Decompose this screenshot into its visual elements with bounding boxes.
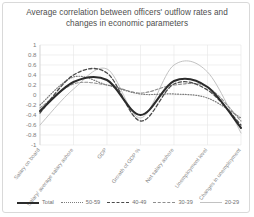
legend-item-20-29[interactable]: 20-29: [200, 199, 239, 205]
y-axis-tick-label: -0.2: [26, 101, 37, 108]
x-axis-tick-label: Unemployment level: [173, 147, 208, 189]
legend-swatch-40-49: [107, 199, 129, 205]
chart-plot-area: 10.80.60.40.20-0.2-0.4-0.6-0.8-1Salary o…: [3, 3, 251, 214]
y-axis-tick-label: 1: [33, 41, 37, 48]
legend-swatch-20-29: [200, 199, 222, 205]
legend-item-30-39[interactable]: 30-39: [153, 199, 192, 205]
x-axis-tick-label: Net salary ashore: [144, 147, 175, 184]
x-axis-tick-label: Salary on board: [13, 147, 41, 181]
y-axis-tick-label: 0.2: [28, 81, 37, 88]
legend-swatch-total: [17, 199, 39, 205]
x-axis-tick-label: GDP: [96, 147, 108, 160]
legend-label-total: Total: [42, 199, 54, 205]
chart-legend: Total 50-59 40-49 30-39 20-29: [17, 196, 243, 208]
chart-card: Average correlation between officers' ou…: [2, 2, 250, 213]
y-axis-tick-label: -0.8: [26, 131, 37, 138]
legend-label-30-39: 30-39: [178, 199, 192, 205]
legend-item-total[interactable]: Total: [17, 199, 54, 205]
y-axis-tick-label: 0.4: [28, 71, 37, 78]
legend-item-40-49[interactable]: 40-49: [107, 199, 146, 205]
legend-label-20-29: 20-29: [225, 199, 239, 205]
y-axis-tick-label: -0.4: [26, 111, 37, 118]
legend-item-50-59[interactable]: 50-59: [61, 199, 100, 205]
x-axis-tick-label: Growth of GDP %: [110, 147, 141, 185]
legend-swatch-30-39: [153, 199, 175, 205]
y-axis-tick-label: 0.8: [28, 51, 37, 58]
legend-label-50-59: 50-59: [86, 199, 100, 205]
legend-label-40-49: 40-49: [132, 199, 146, 205]
legend-swatch-50-59: [61, 199, 83, 205]
y-axis-tick-label: -0.6: [26, 121, 37, 128]
y-axis-tick-label: 0: [33, 91, 37, 98]
y-axis-tick-label: 0.6: [28, 61, 37, 68]
